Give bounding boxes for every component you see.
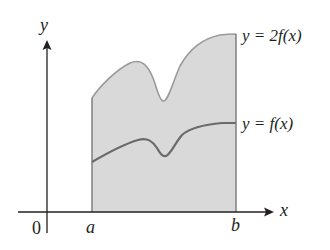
y-axis-label: y (40, 16, 48, 34)
origin-label: 0 (32, 219, 41, 237)
upper-curve-label: y = 2f(x) (242, 27, 302, 44)
lower-curve-label: y = f(x) (242, 115, 293, 132)
x-axis-label: x (280, 201, 288, 219)
interval-left-label: a (86, 218, 95, 236)
interval-right-label: b (231, 216, 240, 234)
